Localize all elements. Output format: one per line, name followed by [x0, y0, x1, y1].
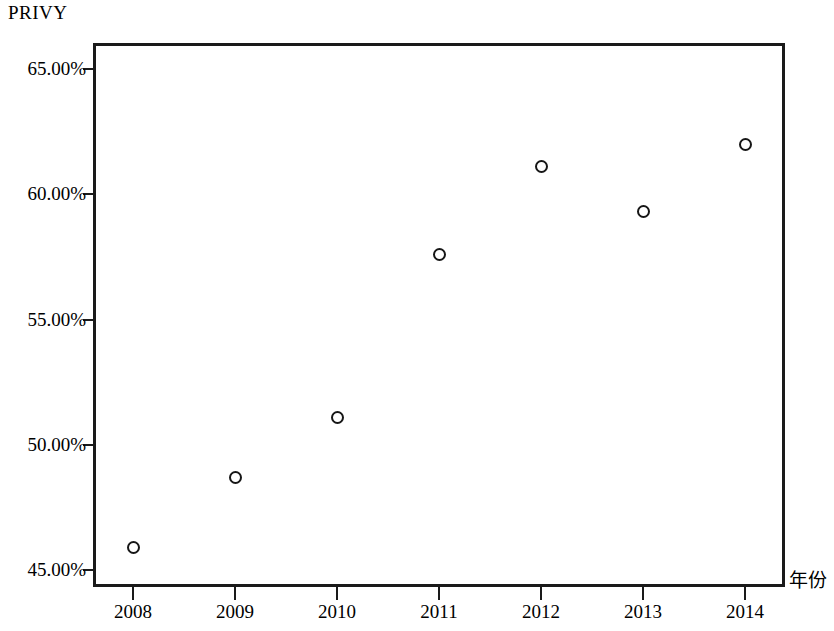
scatter-chart-figure: PRIVY 45.00%50.00%55.00%60.00%65.00% 200… [0, 0, 834, 631]
x-axis-tick-label: 2012 [501, 601, 581, 623]
data-point-marker [739, 138, 752, 151]
y-axis-tick-label: 50.00% [0, 435, 86, 454]
x-axis-title: 年份 [789, 570, 827, 592]
data-point-marker [331, 411, 344, 424]
x-axis-tick [744, 587, 746, 600]
data-point-marker [229, 471, 242, 484]
data-point-marker [535, 160, 548, 173]
y-axis-tick-label: 55.00% [0, 310, 86, 329]
y-axis-tick-label: 65.00% [0, 59, 86, 78]
x-axis-tick-label: 2010 [297, 601, 377, 623]
y-axis-tick-label: 60.00% [0, 184, 86, 203]
plot-area [93, 43, 785, 587]
data-point-marker [433, 248, 446, 261]
chart-title: PRIVY [8, 2, 68, 24]
x-axis-tick [540, 587, 542, 600]
x-axis-tick-label: 2008 [93, 601, 173, 623]
y-axis-tick-label: 45.00% [0, 560, 86, 579]
x-axis-tick-label: 2009 [195, 601, 275, 623]
data-point-marker [127, 541, 140, 554]
x-axis-tick [336, 587, 338, 600]
x-axis-tick-label: 2011 [399, 601, 479, 623]
x-axis-tick [234, 587, 236, 600]
x-axis-tick-label: 2014 [705, 601, 785, 623]
data-point-marker [637, 205, 650, 218]
x-axis-tick [132, 587, 134, 600]
x-axis-tick [438, 587, 440, 600]
x-axis-tick-label: 2013 [603, 601, 683, 623]
x-axis-tick [642, 587, 644, 600]
